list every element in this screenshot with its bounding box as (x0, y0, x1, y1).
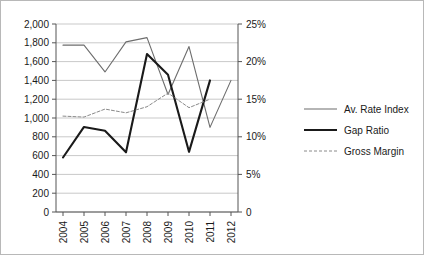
x-axis-tick-label: 2005 (79, 221, 90, 244)
y-axis-right-tick-label: 15% (246, 94, 266, 105)
y-axis-left-tick-label: 200 (32, 188, 49, 199)
chart-legend: Av. Rate IndexGap RatioGross Margin (304, 104, 409, 157)
y-axis-left-tick-label: 1,200 (24, 94, 49, 105)
y-axis-right-tick-label: 10% (246, 131, 266, 142)
y-axis-left-tick-label: 2,000 (24, 19, 49, 30)
y-axis-right-tick-label: 25% (246, 19, 266, 30)
y-axis-right-tick-label: 20% (246, 56, 266, 67)
line-chart: 2,0001,8001,6001,4001,2001,0008006004002… (1, 1, 423, 254)
y-axis-left-tick-label: 0 (43, 207, 49, 218)
y-axis-left-tick-label: 1,000 (24, 113, 49, 124)
x-axis-tick-label: 2008 (142, 221, 153, 244)
y-axis-left-tick-labels: 2,0001,8001,6001,4001,2001,0008006004002… (24, 19, 49, 218)
x-axis-tick-label: 2011 (205, 221, 216, 243)
y-axis-left-tick-label: 600 (32, 150, 49, 161)
legend-item-label: Av. Rate Index (344, 104, 409, 115)
x-axis-ticks (63, 212, 231, 216)
x-axis-tick-label: 2012 (226, 221, 237, 244)
legend-item-label: Gross Margin (344, 146, 404, 157)
y-axis-right-tick-label: 0 (246, 207, 252, 218)
data-series-layer (63, 38, 231, 158)
chart-canvas: 2,0001,8001,6001,4001,2001,0008006004002… (1, 1, 423, 254)
x-axis-tick-label: 2007 (121, 221, 132, 244)
x-axis-tick-label: 2006 (100, 221, 111, 244)
y-axis-left-tick-label: 1,800 (24, 37, 49, 48)
series-line-av-rate-index (63, 38, 231, 128)
y-axis-left-ticks (52, 24, 56, 212)
x-axis-tick-label: 2004 (58, 221, 69, 244)
x-axis-tick-label: 2010 (184, 221, 195, 244)
y-axis-left-tick-label: 1,600 (24, 56, 49, 67)
y-axis-left-tick-label: 400 (32, 169, 49, 180)
y-axis-left-tick-label: 1,400 (24, 75, 49, 86)
x-axis-tick-labels: 200420052006200720082009201020112012 (58, 221, 237, 244)
chart-screenshot: 2,0001,8001,6001,4001,2001,0008006004002… (0, 0, 424, 255)
legend-item-label: Gap Ratio (344, 125, 389, 136)
series-line-gap-ratio (63, 54, 210, 157)
y-axis-left-tick-label: 800 (32, 131, 49, 142)
y-axis-right-tick-labels: 25%20%15%10%5%0 (246, 19, 266, 218)
gridlines (56, 24, 238, 212)
y-axis-right-ticks (238, 24, 242, 212)
x-axis-tick-label: 2009 (163, 221, 174, 244)
y-axis-right-tick-label: 5% (246, 169, 261, 180)
